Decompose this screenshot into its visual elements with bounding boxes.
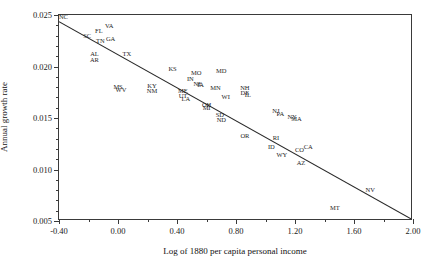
data-point-label: AZ	[297, 160, 305, 167]
growth-convergence-scatter-figure: Annual growth rate NCSCFLVATNGAALARTXKSM…	[0, 0, 438, 270]
x-tick-major	[118, 219, 119, 224]
data-point-label: AR	[90, 57, 99, 64]
x-tick-minor	[325, 219, 326, 222]
x-tick-label: 0.40	[170, 226, 185, 236]
plot-frame: NCSCFLVATNGAALARTXKSMOMDINNEIAMSWVKYNMME…	[58, 14, 412, 220]
data-point-label: WV	[116, 86, 127, 93]
data-point-label: IA	[197, 82, 204, 89]
data-point-label: SC	[83, 33, 91, 40]
y-tick-label: 0.020	[33, 62, 52, 72]
x-tick-major	[236, 219, 237, 224]
y-tick-major	[54, 118, 59, 119]
x-axis-title: Log of 1880 per capita personal income	[58, 246, 412, 256]
x-tick-label: 0.00	[111, 226, 126, 236]
data-point-label: KS	[169, 66, 177, 73]
x-tick-major	[354, 219, 355, 224]
y-tick-minor	[56, 108, 59, 109]
data-point-label: PA	[276, 111, 284, 118]
y-tick-minor	[56, 25, 59, 26]
y-tick-minor	[56, 77, 59, 78]
data-point-label: MI	[203, 104, 211, 111]
x-tick-major	[413, 219, 414, 224]
data-point-label: ND	[217, 117, 226, 124]
x-tick-label: 1.20	[288, 226, 303, 236]
plot-area: NCSCFLVATNGAALARTXKSMOMDINNEIAMSWVKYNMME…	[59, 15, 411, 219]
data-point-label: TX	[123, 51, 131, 58]
y-tick-minor	[56, 180, 59, 181]
y-tick-label: 0.005	[33, 216, 52, 226]
x-tick-major	[295, 219, 296, 224]
y-tick-minor	[56, 46, 59, 47]
x-tick-minor	[266, 219, 267, 222]
y-tick-major	[54, 15, 59, 16]
y-tick-minor	[56, 149, 59, 150]
y-tick-minor	[56, 97, 59, 98]
x-tick-major	[177, 219, 178, 224]
x-tick-minor	[148, 219, 149, 222]
data-point-label: NM	[147, 88, 157, 95]
y-tick-minor	[56, 139, 59, 140]
data-point-label: FL	[95, 28, 102, 35]
data-point-label: RI	[273, 134, 279, 141]
data-point-label: NV	[366, 187, 375, 194]
y-tick-minor	[56, 56, 59, 57]
y-tick-label: 0.015	[33, 113, 52, 123]
x-tick-label: 2.00	[406, 226, 421, 236]
data-point-label: ID	[268, 144, 275, 151]
data-point-label: LA	[182, 96, 190, 103]
data-point-label: CA	[304, 144, 313, 151]
data-point-label: CO	[295, 147, 304, 154]
data-point-label: MA	[291, 116, 301, 123]
y-tick-label: 0.010	[33, 165, 52, 175]
x-tick-minor	[207, 219, 208, 222]
y-axis-title: Annual growth rate	[0, 82, 9, 152]
data-point-label: OR	[240, 132, 249, 139]
y-tick-minor	[56, 200, 59, 201]
x-tick-label: -0.40	[50, 226, 68, 236]
y-tick-minor	[56, 87, 59, 88]
y-tick-minor	[56, 128, 59, 129]
y-tick-major	[54, 170, 59, 171]
regression-line	[59, 15, 411, 219]
x-tick-minor	[89, 219, 90, 222]
x-tick-label: 1.60	[347, 226, 362, 236]
data-point-label: VA	[105, 23, 113, 30]
x-tick-label: 0.80	[229, 226, 244, 236]
data-point-label: IL	[245, 92, 251, 99]
x-tick-minor	[384, 219, 385, 222]
y-tick-minor	[56, 36, 59, 37]
data-point-label: MT	[330, 205, 340, 212]
data-point-label: GA	[106, 36, 115, 43]
data-point-label: MN	[210, 85, 220, 92]
data-point-label: TN	[96, 38, 104, 45]
data-point-label: WY	[276, 152, 287, 159]
x-tick-major	[59, 219, 60, 224]
y-tick-minor	[56, 211, 59, 212]
y-tick-minor	[56, 159, 59, 160]
y-tick-major	[54, 67, 59, 68]
data-point-label: MD	[216, 68, 226, 75]
data-point-label: NC	[59, 15, 68, 20]
data-point-label: WI	[222, 94, 230, 101]
y-tick-label: 0.025	[33, 10, 52, 20]
y-tick-minor	[56, 190, 59, 191]
